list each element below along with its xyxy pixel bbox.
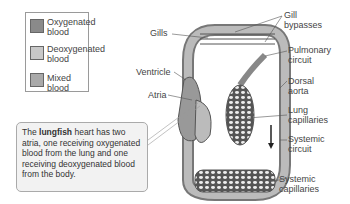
label-syscap-2: capillaries [279,184,319,194]
swatch-mixed [30,73,44,87]
swatch-deoxygenated [30,46,44,60]
legend-label: Deoxygenated [47,44,105,54]
legend-item-mixed: Mixed blood [30,71,88,93]
label-lung-2: capillaries [288,115,328,125]
label-pulmonary-2: circuit [288,55,312,65]
label-systemic-2: circuit [288,144,312,154]
label-gill-bypasses-1: Gill [284,10,297,20]
label-lung-1: Lung [288,105,308,115]
legend-label: Mixed blood [47,73,88,93]
label-syscap-1: Systemic [279,174,316,184]
label-ventricle: Ventricle [136,67,171,77]
legend-item-deoxygenated: Deoxygenatedblood [30,44,105,64]
label-atria: Atria [148,90,167,100]
note-text: The [22,127,39,137]
legend-item-oxygenated: Oxygenatedblood [30,17,96,37]
label-dorsal-2: aorta [288,86,309,96]
legend-label: blood [47,27,69,37]
label-pulmonary-1: Pulmonary [288,45,331,55]
swatch-oxygenated [30,19,44,33]
label-dorsal-1: Dorsal [288,76,314,86]
legend-label: blood [47,54,69,64]
label-gill-bypasses-2: bypasses [284,20,322,30]
legend: Oxygenatedblood Deoxygenatedblood Mixed … [25,12,89,92]
label-systemic-1: Systemic [288,134,325,144]
label-gills: Gills [150,28,168,38]
legend-label: Oxygenated [47,17,96,27]
note-bold: lungfish [39,127,72,137]
lungfish-note: The lungfish heart has two atria, one re… [16,122,148,192]
